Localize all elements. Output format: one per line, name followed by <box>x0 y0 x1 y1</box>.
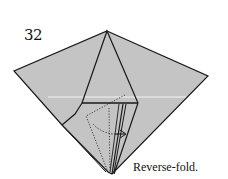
instruction-caption: Reverse-fold. <box>133 161 198 173</box>
origami-fold-diagram <box>0 0 228 179</box>
